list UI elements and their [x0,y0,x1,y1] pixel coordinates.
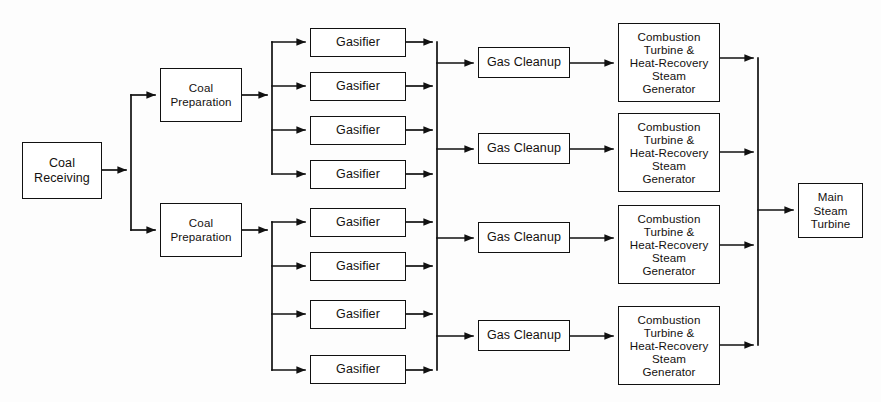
node-gasifier-2-label: Gasifier [333,79,383,94]
node-gas-cleanup-4[interactable]: Gas Cleanup [478,320,570,351]
node-gas-cleanup-1-label: Gas Cleanup [484,55,564,70]
node-gasifier-8[interactable]: Gasifier [310,355,406,384]
node-main-steam-turbine[interactable]: Main Steam Turbine [798,183,863,238]
node-gasifier-4[interactable]: Gasifier [310,160,406,189]
node-cthrsg-2-label: Combustion Turbine & Heat-Recovery Steam… [627,120,712,185]
node-coal-preparation-1-label: Coal Preparation [167,81,234,108]
node-gas-cleanup-2[interactable]: Gas Cleanup [478,133,570,164]
node-gas-cleanup-3-label: Gas Cleanup [484,230,564,245]
node-coal-preparation-2-label: Coal Preparation [167,216,234,243]
node-gasifier-5-label: Gasifier [333,215,383,230]
node-gasifier-6-label: Gasifier [333,259,383,274]
node-coal-receiving-label: Coal Receiving [31,156,93,186]
node-cthrsg-4[interactable]: Combustion Turbine & Heat-Recovery Steam… [618,306,720,385]
node-cthrsg-4-label: Combustion Turbine & Heat-Recovery Steam… [627,313,712,378]
node-coal-receiving[interactable]: Coal Receiving [22,142,102,199]
node-gasifier-7-label: Gasifier [333,307,383,322]
node-cthrsg-2[interactable]: Combustion Turbine & Heat-Recovery Steam… [618,113,720,192]
node-coal-preparation-2[interactable]: Coal Preparation [160,203,242,257]
node-cthrsg-1-label: Combustion Turbine & Heat-Recovery Steam… [627,30,712,95]
node-gasifier-5[interactable]: Gasifier [310,208,406,237]
node-gas-cleanup-4-label: Gas Cleanup [484,328,564,343]
node-gas-cleanup-1[interactable]: Gas Cleanup [478,47,570,78]
node-gasifier-2[interactable]: Gasifier [310,72,406,101]
node-gas-cleanup-3[interactable]: Gas Cleanup [478,222,570,253]
node-gasifier-1-label: Gasifier [333,35,383,50]
node-gasifier-6[interactable]: Gasifier [310,252,406,281]
node-gasifier-3[interactable]: Gasifier [310,116,406,145]
node-gasifier-8-label: Gasifier [333,362,383,377]
node-gas-cleanup-2-label: Gas Cleanup [484,141,564,156]
node-cthrsg-1[interactable]: Combustion Turbine & Heat-Recovery Steam… [618,23,720,102]
diagram-connectors [0,0,881,402]
process-flow-diagram: Coal Receiving Coal Preparation Coal Pre… [0,0,881,402]
node-cthrsg-3-label: Combustion Turbine & Heat-Recovery Steam… [627,212,712,277]
node-gasifier-4-label: Gasifier [333,167,383,182]
node-main-steam-turbine-label: Main Steam Turbine [808,190,854,231]
node-gasifier-7[interactable]: Gasifier [310,300,406,329]
node-gasifier-3-label: Gasifier [333,123,383,138]
node-cthrsg-3[interactable]: Combustion Turbine & Heat-Recovery Steam… [618,205,720,284]
node-coal-preparation-1[interactable]: Coal Preparation [160,68,242,122]
node-gasifier-1[interactable]: Gasifier [310,28,406,57]
